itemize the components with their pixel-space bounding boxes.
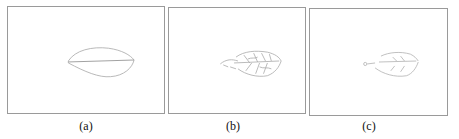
leaf-edges-sparse-image [310, 9, 447, 115]
leaf-edges-dense-image [169, 8, 305, 113]
caption-a: (a) [66, 119, 106, 134]
caption-c: (c) [349, 119, 389, 134]
panel-a [7, 6, 165, 114]
panel-c [309, 8, 448, 116]
panel-b [168, 7, 306, 114]
leaf-outline-image [8, 7, 164, 113]
caption-b: (b) [213, 119, 253, 134]
